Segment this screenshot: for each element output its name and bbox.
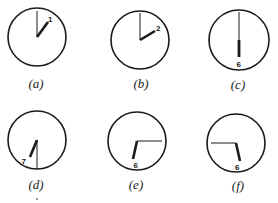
clock-f: 6	[207, 114, 265, 172]
label-f: (f)	[232, 178, 244, 194]
hour-hand	[140, 31, 155, 40]
clock-numeral: 1	[48, 15, 53, 24]
hour-hand	[37, 22, 48, 37]
hour-hand	[236, 143, 240, 161]
hour-hand	[30, 140, 37, 157]
label-c: (c)	[231, 77, 245, 93]
clock-numeral: 6	[235, 163, 240, 172]
label-e: (e)	[129, 177, 143, 193]
clock-b: 2	[111, 11, 169, 69]
label-a: (a)	[28, 76, 43, 92]
label-b: (b)	[133, 76, 148, 92]
clock-e: 6	[108, 112, 166, 170]
clock-c: 6	[209, 10, 269, 70]
clock-numeral: 6	[134, 161, 139, 170]
hour-hand	[133, 141, 137, 159]
label-d: (d)	[28, 177, 43, 193]
clock-d: 7	[8, 111, 66, 169]
clock-a: 1	[8, 8, 66, 66]
clock-numeral: 6	[237, 60, 242, 69]
clock-numeral: 2	[156, 24, 161, 33]
stray-dot	[36, 198, 38, 200]
clock-numeral: 7	[22, 157, 27, 166]
clocks-diagram: 1 2 6 7 6 6	[0, 0, 278, 203]
